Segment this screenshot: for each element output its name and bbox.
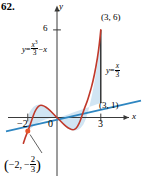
x-tick-label-3: 3	[98, 119, 103, 129]
annotation-leader-line	[30, 135, 42, 154]
line-eq-fraction: x3	[115, 62, 121, 78]
paren-close: )	[36, 157, 41, 173]
point-marker-neg2	[25, 129, 30, 134]
line-eq-numerator: x	[115, 62, 121, 70]
y-tick-label-6: 6	[43, 24, 48, 33]
x-axis-label: x	[132, 112, 136, 121]
x-tick-label-neg2: −2	[17, 119, 28, 129]
point-label-neg2-neg2over3: (−2,−23)	[4, 155, 41, 174]
figure-container: 62. y x 6 −2 0 3 (3, 6) (3, 1) y=x33−x y…	[0, 0, 146, 186]
problem-number: 62.	[1, 1, 15, 12]
cubic-eq-trailing: x	[43, 44, 47, 54]
line-equation-label: y=x3	[106, 62, 120, 78]
line-eq-denominator: 3	[115, 70, 121, 79]
y-axis	[54, 6, 59, 177]
point-label-3-1: (3, 1)	[99, 101, 119, 110]
origin-label: 0	[48, 119, 53, 129]
y-axis-label: y	[59, 2, 63, 11]
neg2-x-value: −2,	[9, 159, 22, 170]
cubic-equation-label: y=x33−x	[22, 40, 47, 57]
point-label-3-6: (3, 6)	[101, 13, 121, 22]
